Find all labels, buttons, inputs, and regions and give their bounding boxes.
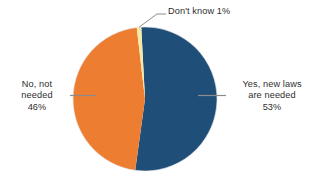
pie-chart: Don't know 1% No, not needed 46% Yes, ne… [0,0,319,181]
slice-label-yes-line2: are needed [228,90,316,101]
slice-label-yes-line1: Yes, new laws [228,79,316,90]
pie-slice-yes[interactable] [135,27,217,171]
slice-label-no: No, not needed 46% [6,79,68,113]
slice-label-yes: Yes, new laws are needed 53% [228,79,316,113]
slice-label-no-value: 46% [6,102,68,113]
leader-line-dont-know [139,14,166,27]
pie-slice-no-body[interactable] [73,27,145,170]
slice-label-no-line1: No, not [6,79,68,90]
slice-label-no-line2: needed [6,90,68,101]
slice-label-dont-know-line1: Don't know 1% [168,6,230,17]
slice-label-dont-know: Don't know 1% [168,6,230,17]
slice-label-yes-value: 53% [228,102,316,113]
